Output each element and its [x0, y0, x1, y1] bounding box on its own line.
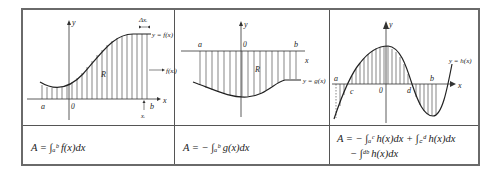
curve-label: y = f(x)	[151, 31, 174, 39]
xi-label: xᵢ	[140, 112, 145, 119]
formula-mixed-area-line2: − ∫ᵈᵇ h(x)dx	[350, 147, 398, 160]
area-integrals-table: y x 0 a b R y = f(x) Δxᵢ xᵢ f(xᵢ)	[21, 8, 480, 166]
delta-x-label: Δxᵢ	[138, 16, 147, 24]
origin-label: 0	[243, 40, 247, 49]
formula-mixed-area-line1: A = − ∫ₐᶜ h(x)dx + ∫꜀ᵈ h(x)dx	[337, 132, 455, 145]
region-hatching	[42, 34, 147, 99]
curve-label: y = g(x)	[302, 77, 326, 85]
region-hatching	[200, 51, 296, 96]
y-axis-arrow-icon	[67, 20, 71, 25]
row-divider	[23, 125, 478, 126]
panel-positive-area: y x 0 a b R y = f(x) Δxᵢ xᵢ f(xᵢ)	[23, 10, 174, 125]
x-axis-arrow-icon	[450, 81, 456, 87]
c-label: c	[350, 87, 354, 96]
curve-g	[193, 80, 301, 97]
origin-label: 0	[71, 102, 75, 111]
b-label: b	[150, 102, 154, 111]
x-axis-label: x	[304, 56, 309, 65]
y-axis-label: y	[388, 20, 393, 29]
region-label: R	[254, 65, 260, 74]
y-axis-label: y	[243, 20, 248, 29]
delta-x-arrow-icon	[147, 26, 150, 29]
panel-negative-area: y x 0 a b R y = g(x)	[175, 10, 329, 125]
a-label: a	[198, 40, 202, 49]
origin-label: 0	[379, 86, 383, 95]
y-axis-label: y	[71, 18, 76, 27]
b-label: b	[294, 40, 298, 49]
a-label: a	[41, 102, 45, 111]
panel-mixed-area: y x 0 a b c d y = h(x)	[330, 10, 478, 125]
x-axis-label: x	[457, 81, 462, 90]
x-axis-label: x	[162, 96, 167, 105]
diagram-negative-area: y x 0 a b R y = g(x)	[175, 10, 329, 125]
a-label: a	[334, 74, 338, 83]
x-axis-arrow-icon	[157, 97, 161, 101]
formula-negative-area: A = − ∫ₐᵇ g(x)dx	[183, 141, 249, 154]
y-axis-arrow-icon	[239, 21, 243, 26]
d-label: d	[407, 86, 412, 95]
curve-f	[40, 34, 151, 87]
diagram-mixed-area: y x 0 a b c d y = h(x)	[330, 10, 478, 125]
height-arrow-icon	[162, 69, 165, 72]
b-label: b	[430, 74, 434, 83]
region-label: R	[100, 70, 106, 79]
diagram-positive-area: y x 0 a b R y = f(x) Δxᵢ xᵢ f(xᵢ)	[23, 10, 174, 125]
curve-label: y = h(x)	[448, 57, 472, 65]
delta-x-arrow-icon	[139, 26, 142, 29]
formula-positive-area: A = ∫ₐᵇ f(x)dx	[31, 141, 85, 154]
xi-arrow-icon	[143, 100, 146, 103]
